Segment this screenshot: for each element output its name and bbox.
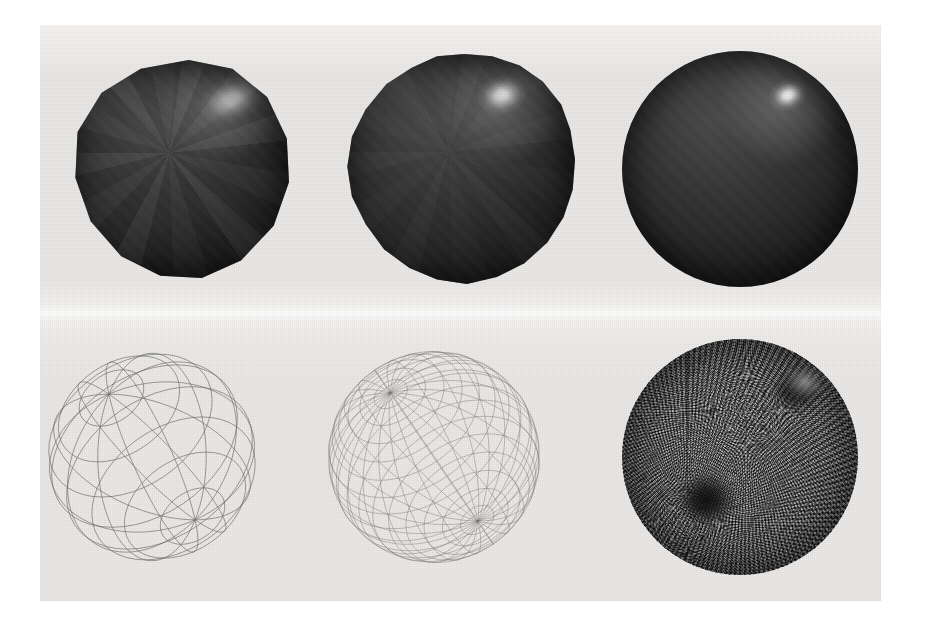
panel-shaded-coarse <box>40 25 320 313</box>
wireframe-fine <box>622 339 858 575</box>
panel-stage <box>622 339 858 575</box>
wireframe-medium <box>320 343 548 571</box>
wire-edge <box>390 360 520 521</box>
wire-edge <box>387 360 478 521</box>
panel-label <box>320 25 321 26</box>
wire-edge <box>348 393 478 554</box>
wire-edge <box>106 362 195 520</box>
figure-root <box>0 0 927 623</box>
panel-grid <box>40 25 881 601</box>
panel-label <box>600 25 601 26</box>
wire-mesh <box>49 353 255 560</box>
panel-stage <box>40 345 320 569</box>
wire-edge <box>58 356 179 462</box>
sphere-shaded-medium <box>345 54 575 284</box>
panel-label <box>600 549 601 550</box>
panel-wire-medium <box>320 313 600 601</box>
wire-edge <box>390 354 479 521</box>
wireframe-coarse <box>40 345 264 569</box>
wire-edge <box>109 394 198 552</box>
wire-edge <box>390 393 481 554</box>
halftone-dither <box>345 54 575 284</box>
panel-label <box>40 25 41 26</box>
panel-stage <box>320 343 600 571</box>
sphere-shaded-fine <box>622 51 858 287</box>
panel-stage <box>345 54 575 284</box>
sphere-shaded-coarse <box>71 60 289 278</box>
panel-stage <box>71 60 289 278</box>
wire-edge <box>338 373 530 541</box>
panel-shaded-fine <box>600 25 880 313</box>
halftone-dither <box>71 60 289 278</box>
panel-stage <box>622 51 858 287</box>
wire-edge <box>49 354 212 497</box>
wire-edge <box>389 393 478 560</box>
halftone-dither <box>622 51 858 287</box>
panel-shaded-medium <box>320 25 600 313</box>
panel-wire-coarse <box>40 313 320 601</box>
mesh-vignette <box>622 339 858 575</box>
wire-edge <box>68 394 196 552</box>
panel-wire-fine <box>600 313 880 601</box>
wire-mesh <box>329 351 539 562</box>
wire-edge <box>124 452 245 558</box>
wire-edge <box>109 362 237 520</box>
scanned-plate <box>40 25 881 601</box>
wire-edge <box>92 417 255 560</box>
